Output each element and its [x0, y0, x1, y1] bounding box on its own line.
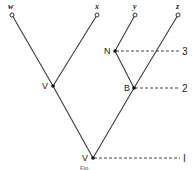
edge-v-to-x [53, 15, 97, 86]
internal-node-n [113, 49, 117, 53]
internal-node-v-root [91, 156, 95, 160]
level-label-2: 2 [182, 83, 188, 94]
level-label-3: 3 [182, 46, 188, 57]
node-label-v-upper: V [42, 81, 48, 91]
figure-caption: Fig. [80, 165, 90, 170]
leaf-node-w [10, 13, 14, 17]
leaf-label-z: z [175, 2, 180, 11]
leaf-node-y [133, 13, 137, 17]
level-label-1: I [183, 153, 186, 164]
node-label-b: B [124, 83, 130, 93]
leaf-node-x [95, 13, 99, 17]
leaf-label-x: x [94, 2, 99, 11]
edge-root-to-v [53, 86, 93, 158]
leaf-label-y: y [132, 2, 137, 11]
edge-v-to-w [12, 15, 53, 86]
leaf-label-w: w [8, 2, 14, 11]
internal-node-b [132, 86, 136, 90]
edge-root-to-b [93, 88, 134, 158]
edge-n-to-y [115, 15, 135, 51]
internal-node-v-upper [51, 84, 55, 88]
tree-diagram: w x y z V N B V 3 2 I Fig. [0, 0, 195, 170]
node-label-n: N [104, 46, 111, 56]
leaf-node-z [176, 13, 180, 17]
node-label-v-root: V [82, 153, 88, 163]
